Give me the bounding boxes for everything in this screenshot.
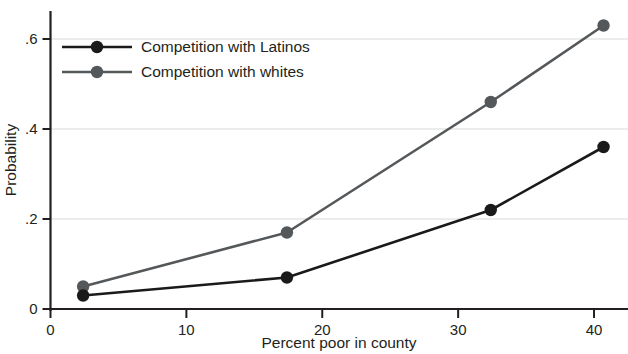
legend-label-competition-with-latinos: Competition with Latinos [141, 38, 310, 55]
data-point-competition-with-latinos-0 [77, 289, 89, 301]
data-point-competition-with-whites-2 [485, 96, 497, 108]
line-chart: 0.2.4.6 010203040 Percent poor in county… [0, 0, 628, 354]
x-tick-label-0: 0 [46, 321, 54, 338]
data-point-competition-with-latinos-3 [597, 141, 609, 153]
data-point-competition-with-whites-1 [281, 226, 293, 238]
y-axis-title: Probability [2, 124, 19, 197]
y-tick-label-0: 0 [29, 300, 37, 317]
y-tick-label-.4: .4 [25, 120, 38, 137]
x-tick-label-30: 30 [450, 321, 467, 338]
data-point-competition-with-latinos-1 [281, 271, 293, 283]
data-point-competition-with-latinos-2 [485, 204, 497, 216]
y-tick-label-.2: .2 [25, 210, 38, 227]
y-tick-label-.6: .6 [25, 30, 38, 47]
chart-background [0, 0, 628, 354]
x-axis-title: Percent poor in county [261, 334, 416, 351]
data-point-competition-with-whites-3 [597, 19, 609, 31]
chart-figure: 0.2.4.6 010203040 Percent poor in county… [0, 0, 628, 354]
legend-marker-competition-with-latinos [91, 41, 103, 53]
x-tick-label-10: 10 [178, 321, 195, 338]
x-tick-label-40: 40 [586, 321, 603, 338]
legend-label-competition-with-whites: Competition with whites [141, 63, 304, 80]
legend-marker-competition-with-whites [91, 66, 103, 78]
